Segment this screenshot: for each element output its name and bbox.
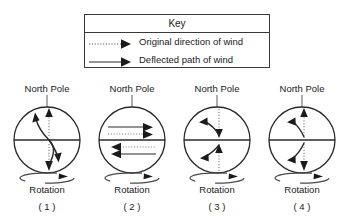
north-pole-label-2: North Pole [89, 84, 175, 94]
globe-panel-2: North Pole Rotation ( 2 ) [89, 84, 175, 223]
rotation-label-2: Rotation [89, 185, 175, 195]
figure-number-3: ( 3 ) [174, 202, 260, 212]
globe-panel-1: North Pole Rotation ( 1 ) [4, 84, 90, 223]
rotation-arrow-icon-3 [174, 170, 260, 186]
key-title: Key [168, 19, 185, 29]
figure-number-1: ( 1 ) [4, 202, 90, 212]
rotation-arrow-icon-2 [89, 170, 175, 186]
northern-arrows [108, 123, 153, 139]
key-entry-deflected: Deflected path of wind [85, 51, 269, 69]
key-legend-box: Key Original direction of wind Deflected… [84, 14, 270, 68]
globe-panel-3: North Pole Rotation ( 3 ) [174, 84, 260, 223]
figure-number-2: ( 2 ) [89, 202, 175, 212]
southern-arrows [111, 143, 156, 159]
key-entry-deflected-label: Deflected path of wind [139, 55, 233, 65]
solid-arrow-right-icon [88, 54, 136, 66]
rotation-label-1: Rotation [4, 185, 90, 195]
globe-panel-4: North Pole Rotation ( 4 ) [259, 84, 345, 223]
rotation-label-3: Rotation [174, 185, 260, 195]
key-entry-original-label: Original direction of wind [139, 37, 243, 47]
figure-number-4: ( 4 ) [259, 202, 345, 212]
deflected-path-curve [32, 113, 61, 166]
rotation-label-4: Rotation [259, 185, 345, 195]
dotted-arrow-right-icon [88, 36, 136, 48]
north-pole-label-4: North Pole [259, 84, 345, 94]
north-pole-label-1: North Pole [4, 84, 90, 94]
rotation-arrow-icon-4 [259, 170, 345, 186]
rotation-arrow-icon-1 [4, 170, 90, 186]
key-title-row: Key [85, 15, 269, 33]
key-entry-original: Original direction of wind [85, 33, 269, 51]
north-pole-label-3: North Pole [174, 84, 260, 94]
